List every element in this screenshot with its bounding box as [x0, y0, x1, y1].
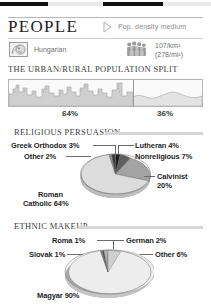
- urban-rural-divider: [133, 80, 134, 106]
- leader-greek-orthodox: [93, 145, 115, 146]
- people-infographic-page: PEOPLE Pop. density medium Hungarian: [0, 0, 211, 308]
- rolling-hills-icon: [133, 80, 202, 106]
- leader-other: [66, 156, 91, 157]
- leader-lutheran-v: [118, 145, 119, 154]
- crowd-people-icon: [126, 41, 147, 58]
- ethnic-label-slovak: Slovak 1%: [29, 250, 65, 259]
- density-metric: 107/km²: [155, 42, 180, 49]
- top-decorative-rule: [0, 2, 211, 6]
- leader-greek-orthodox-v: [115, 145, 116, 155]
- leader-ethnic-other: [140, 254, 153, 255]
- leader-german-v: [113, 240, 114, 249]
- section-title-ethnic: ETHNIC MAKEUP: [14, 221, 88, 231]
- section-rule-ethnic: [78, 226, 203, 229]
- religion-label-greek-orthodox: Greek Orthodox 3%: [11, 141, 79, 150]
- religion-label-calvinist: Calvinist: [157, 172, 187, 181]
- triangle-right-icon: [103, 21, 112, 33]
- rural-percentage: 36%: [140, 109, 190, 118]
- ethnic-label-roma: Roma 1%: [52, 236, 85, 245]
- face-portrait-icon: [9, 42, 28, 57]
- leader-calvinist: [144, 176, 155, 177]
- ethnic-label-magyar: Magyar 90%: [37, 291, 79, 300]
- religion-label-roman-value: Catholic 64%: [23, 199, 68, 208]
- religion-label-nonreligious: Nonreligious 7%: [135, 152, 192, 161]
- religion-label-other: Other 2%: [24, 152, 56, 161]
- density-badge-label: Pop. density medium: [118, 23, 186, 30]
- info-row-divider: [8, 38, 203, 39]
- urban-percentage: 64%: [40, 109, 100, 118]
- religion-label-calvinist-value: 20%: [157, 181, 172, 190]
- section-title-urban-rural: THE URBAN/RURAL POPULATION SPLIT: [8, 64, 178, 74]
- population-density-value: 107/km² (278/mi²): [155, 42, 183, 59]
- ethnic-label-german: German 2%: [126, 236, 166, 245]
- page-title: PEOPLE: [8, 17, 78, 37]
- religion-label-roman: Roman: [38, 190, 63, 199]
- leader-lutheran: [118, 145, 134, 146]
- urban-rural-panel: [8, 79, 203, 107]
- section-rule-religion: [105, 132, 203, 135]
- ethnic-label-other: Other 6%: [155, 250, 187, 259]
- nationality-label: Hungarian: [34, 46, 66, 53]
- city-skyline-icon: [9, 80, 133, 106]
- leader-slovak: [67, 254, 83, 255]
- religion-label-lutheran: Lutheran 4%: [135, 141, 179, 150]
- leader-german: [113, 240, 124, 241]
- density-imperial: (278/mi²): [155, 51, 183, 58]
